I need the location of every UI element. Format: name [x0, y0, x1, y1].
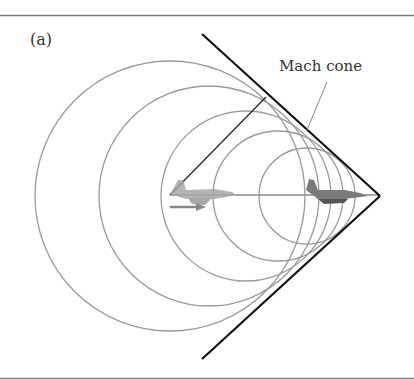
- mach-cone-label: Mach cone: [279, 57, 362, 75]
- mach-cone-diagram: (a) Mach cone: [0, 0, 414, 380]
- aircraft-current-icon: [306, 179, 368, 204]
- aircraft-past-icon: [170, 180, 236, 205]
- annotation-leader-line: [307, 82, 327, 130]
- panel-label: (a): [30, 30, 52, 49]
- radius-line: [170, 97, 266, 195]
- mach-cone-lower-line: [202, 196, 380, 359]
